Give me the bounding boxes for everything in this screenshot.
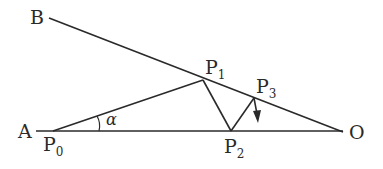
- label-angle-alpha: α: [106, 112, 117, 128]
- label-P1: P1: [205, 58, 225, 77]
- angle-arc: [97, 116, 100, 131]
- diagram-canvas: B A O P0 P1 P2 P3 α: [0, 0, 383, 169]
- line-BO: [49, 18, 343, 132]
- arrow-head-icon: [253, 110, 261, 123]
- label-O: O: [349, 123, 365, 142]
- label-P0: P0: [43, 135, 63, 154]
- label-P2: P2: [224, 137, 244, 156]
- label-P3: P3: [256, 77, 276, 96]
- label-A: A: [18, 122, 32, 141]
- ray-P0-P1: [53, 80, 203, 131]
- label-B: B: [30, 8, 44, 27]
- ray-P2-P3: [231, 98, 254, 131]
